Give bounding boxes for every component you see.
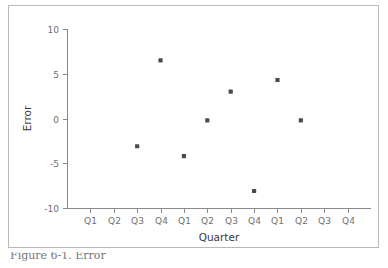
scatter-plot[interactable]: 1050-5-10Q1Q2Q3Q4Q1Q2Q3Q4Q1Q2Q3Q4 Q3: -3… (9, 6, 378, 247)
data-point[interactable]: Q4: -8.1 (252, 189, 256, 193)
figure-caption-text: Figure 6-1. Error (10, 252, 106, 263)
data-point[interactable]: Q4: 6.5 (158, 58, 162, 62)
figure-frame: 1050-5-10Q1Q2Q3Q4Q1Q2Q3Q4Q1Q2Q3Q4 Q3: -3… (8, 5, 379, 248)
x-tick-label: Q3 (318, 216, 331, 226)
x-tick-label: Q1 (84, 216, 97, 226)
y-tick-label: 5 (53, 70, 59, 80)
y-axis-title: Error (21, 105, 33, 131)
x-tick-label: Q2 (295, 216, 308, 226)
x-tick-label: Q3 (225, 216, 238, 226)
x-tick-label: Q1 (271, 216, 284, 226)
data-point[interactable]: Q3: -3.1 (135, 144, 139, 148)
y-tick-label: 10 (48, 25, 60, 35)
data-point[interactable]: Q1: -4.2 (182, 154, 186, 158)
data-point[interactable]: Q2: -0.2 (299, 118, 303, 122)
figure-caption: Figure 6-1. Error (10, 252, 380, 268)
x-axis-title: Quarter (199, 231, 240, 243)
x-tick-label: Q3 (131, 216, 144, 226)
y-tick-label: -10 (44, 204, 59, 214)
x-tick-label: Q1 (178, 216, 191, 226)
data-point[interactable]: Q3: 3 (229, 90, 233, 94)
x-tick-label: Q4 (248, 216, 261, 226)
y-tick-label: -5 (50, 159, 59, 169)
x-tick-label: Q4 (155, 216, 168, 226)
x-tick-label: Q2 (201, 216, 214, 226)
y-tick-label: 0 (53, 115, 59, 125)
data-point[interactable]: Q1: 4.3 (275, 78, 279, 82)
x-tick-label: Q2 (108, 216, 121, 226)
tick-labels-group: 1050-5-10Q1Q2Q3Q4Q1Q2Q3Q4Q1Q2Q3Q4 (44, 25, 355, 226)
axes-group (68, 29, 372, 209)
data-point[interactable]: Q2: -0.2 (205, 118, 209, 122)
data-points-group: Q3: -3.1Q4: 6.5Q1: -4.2Q2: -0.2Q3: 3Q4: … (135, 58, 303, 193)
x-tick-label: Q4 (342, 216, 355, 226)
